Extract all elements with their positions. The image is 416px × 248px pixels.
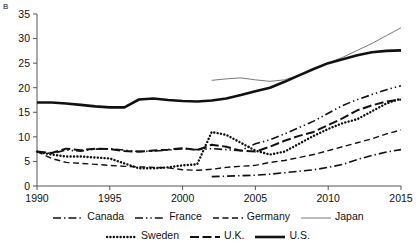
- legend-label: Japan: [335, 210, 364, 222]
- figure-panel-b: B 05101520253035199019952000200520102015…: [0, 0, 416, 248]
- legend-item-sweden[interactable]: Sweden: [106, 229, 179, 241]
- legend-item-japan[interactable]: Japan: [300, 210, 364, 222]
- legend-item-france[interactable]: France: [134, 210, 202, 222]
- y-tick-label: 25: [18, 57, 30, 69]
- series-layer: [37, 28, 401, 177]
- legend-row: SwedenU.K.U.S.: [0, 225, 416, 244]
- x-tick-label: 1990: [25, 192, 49, 204]
- legend-label: Sweden: [141, 229, 179, 241]
- x-tick-label: 2015: [389, 192, 413, 204]
- series-line-france: [37, 86, 401, 154]
- y-tick-label: 35: [18, 8, 30, 20]
- y-tick-label: 20: [18, 82, 30, 94]
- legend-label: U.K.: [224, 229, 244, 241]
- legend-item-germany[interactable]: Germany: [212, 210, 290, 222]
- series-line-us: [37, 50, 401, 107]
- legend-item-us[interactable]: U.S.: [254, 229, 309, 241]
- legend-label: U.S.: [289, 229, 309, 241]
- legend-label: Germany: [247, 210, 290, 222]
- x-tick-label: 2000: [171, 192, 195, 204]
- y-tick-label: 15: [18, 106, 30, 118]
- legend-item-uk[interactable]: U.K.: [189, 229, 244, 241]
- x-tick-label: 2005: [244, 192, 268, 204]
- legend-swatch-icon: [254, 229, 286, 241]
- legend-label: France: [169, 210, 202, 222]
- legend-item-canada[interactable]: Canada: [52, 210, 124, 222]
- tick-labels: 05101520253035199019952000200520102015: [18, 8, 413, 204]
- legend-swatch-icon: [106, 229, 138, 241]
- y-tick-label: 10: [18, 131, 30, 143]
- series-line-sweden: [37, 99, 401, 169]
- legend-swatch-icon: [134, 210, 166, 222]
- x-tick-label: 2010: [317, 192, 341, 204]
- x-tick-label: 1995: [98, 192, 122, 204]
- legend-swatch-icon: [52, 210, 84, 222]
- y-tick-label: 5: [24, 155, 30, 167]
- y-tick-label: 0: [24, 180, 30, 192]
- line-chart: 05101520253035199019952000200520102015: [0, 0, 416, 206]
- series-line-canada: [212, 150, 401, 177]
- y-tick-label: 30: [18, 32, 30, 44]
- legend-label: Canada: [87, 210, 124, 222]
- legend: CanadaFranceGermanyJapanSwedenU.K.U.S.: [0, 206, 416, 244]
- legend-swatch-icon: [300, 210, 332, 222]
- legend-swatch-icon: [189, 229, 221, 241]
- legend-row: CanadaFranceGermanyJapan: [0, 206, 416, 225]
- legend-swatch-icon: [212, 210, 244, 222]
